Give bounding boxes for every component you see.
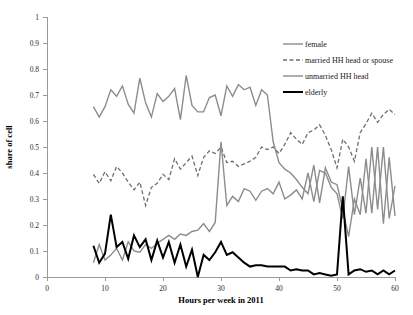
series-line-female (93, 76, 395, 237)
x-axis-tick-group: 0102030405060 (45, 277, 399, 293)
y-tick-label: 0.1 (30, 247, 40, 256)
x-axis-title: Hours per week in 2011 (178, 295, 263, 305)
series-group (93, 76, 395, 278)
legend-label-elderly: elderly (305, 88, 327, 97)
series-line-elderly (93, 196, 395, 277)
legend: femalemarried HH head or spouseunmarried… (283, 40, 393, 97)
chart-container: 00.10.20.30.40.50.60.70.80.91 0102030405… (0, 0, 413, 315)
y-tick-label: 0.9 (30, 39, 40, 48)
y-tick-label: 0.3 (30, 195, 40, 204)
legend-label-married-hh-head-or-spouse: married HH head or spouse (305, 56, 393, 65)
y-tick-label: 0 (35, 273, 39, 282)
line-chart: 00.10.20.30.40.50.60.70.80.91 0102030405… (0, 0, 413, 315)
y-tick-label: 0.6 (30, 117, 40, 126)
x-tick-label: 10 (101, 284, 109, 293)
legend-label-female: female (305, 40, 327, 49)
x-tick-label: 40 (275, 284, 283, 293)
legend-label-unmarried-hh-head: unmarried HH head (305, 72, 369, 81)
x-tick-label: 20 (159, 284, 167, 293)
x-tick-label: 50 (333, 284, 341, 293)
series-line-married-hh-head-or-spouse (93, 109, 395, 205)
x-tick-label: 30 (217, 284, 225, 293)
y-tick-label: 0.4 (30, 169, 40, 178)
x-tick-label: 0 (45, 284, 49, 293)
y-tick-label: 0.7 (30, 91, 40, 100)
y-axis-title: share of cell (4, 125, 14, 169)
y-tick-label: 0.8 (30, 65, 40, 74)
y-tick-label: 0.5 (30, 143, 40, 152)
y-tick-label: 0.2 (30, 221, 40, 230)
y-axis-tick-group: 00.10.20.30.40.50.60.70.80.91 (30, 13, 47, 282)
y-tick-label: 1 (35, 13, 39, 22)
x-tick-label: 60 (391, 284, 399, 293)
